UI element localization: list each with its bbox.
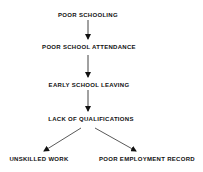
arrow-qualifications-to-unskilled (44, 128, 81, 151)
flow-diagram: POOR SCHOOLING POOR SCHOOL ATTENDANCE EA… (0, 0, 203, 172)
node-early-school-leaving: EARLY SCHOOL LEAVING (49, 81, 130, 89)
node-poor-employment-record: POOR EMPLOYMENT RECORD (99, 155, 195, 163)
arrow-qualifications-to-employment (95, 128, 136, 151)
node-unskilled-work: UNSKILLED WORK (9, 155, 68, 163)
node-lack-of-qualifications: LACK OF QUALIFICATIONS (48, 115, 133, 123)
node-poor-schooling: POOR SCHOOLING (58, 11, 118, 19)
node-poor-school-attendance: POOR SCHOOL ATTENDANCE (42, 43, 136, 51)
